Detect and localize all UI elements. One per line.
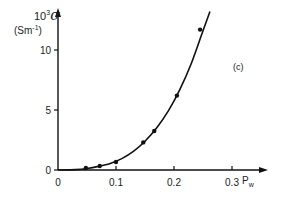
fit-curve (58, 12, 210, 170)
panel-label: (c) (233, 62, 244, 72)
x-axis-arrow-icon (259, 167, 268, 173)
data-point (84, 166, 88, 170)
x-tick-label: 0.2 (167, 177, 181, 188)
data-point (98, 164, 102, 168)
chart-canvas: 00.10.20.30510 103σ (Sm-1) Pw (c) (0, 0, 294, 197)
data-point (175, 93, 179, 97)
x-tick-label: 0.3 (225, 177, 239, 188)
x-axis-label: Pw (242, 175, 255, 188)
y-tick-label: 5 (45, 105, 51, 116)
y-tick-label: 0 (45, 165, 51, 176)
axes (55, 8, 268, 173)
data-point (141, 140, 145, 144)
y-tick-label: 10 (40, 45, 52, 56)
y-axis-units: (Sm-1) (14, 24, 42, 36)
data-point (198, 27, 202, 31)
ticks: 00.10.20.30510 (40, 45, 240, 188)
data-point (114, 160, 118, 164)
y-axis-label: 103σ (34, 7, 60, 23)
data-points (84, 27, 203, 170)
data-point (152, 129, 156, 133)
x-tick-label: 0.1 (109, 177, 123, 188)
x-tick-label: 0 (55, 177, 61, 188)
